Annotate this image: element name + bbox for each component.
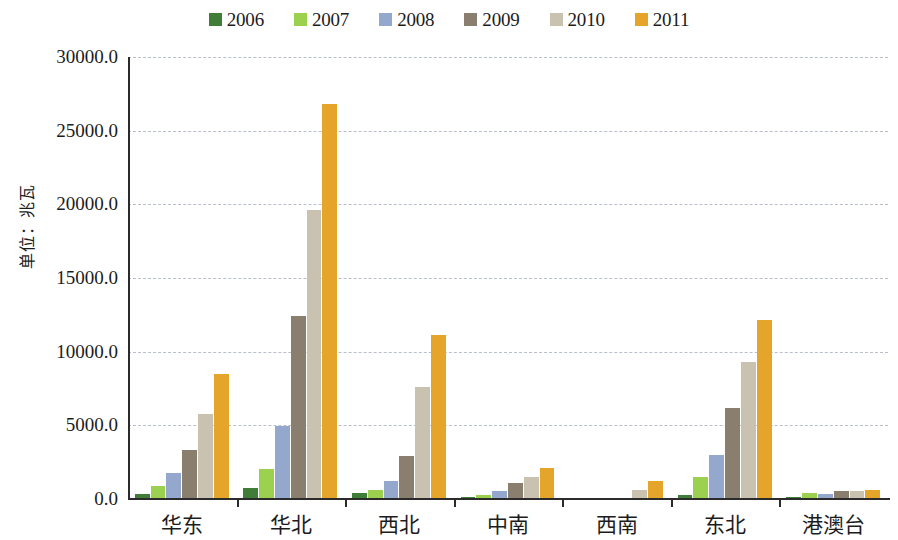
plot-area [128, 57, 888, 499]
bar-group-华北 [243, 57, 338, 499]
bar-西北-2008[interactable] [384, 481, 399, 499]
x-axis-category-label-华东: 华东 [161, 508, 203, 538]
bar-中南-2009[interactable] [508, 483, 523, 499]
bar-group-西北 [352, 57, 447, 499]
plot-wrapper [0, 0, 898, 540]
bar-中南-2010[interactable] [524, 477, 539, 499]
bar-东北-2008[interactable] [709, 455, 724, 499]
bar-华东-2010[interactable] [198, 414, 213, 499]
bar-group-中南 [461, 57, 556, 499]
x-axis-category-label-西北: 西北 [378, 508, 420, 538]
x-axis-category-label-中南: 中南 [487, 508, 529, 538]
bar-东北-2007[interactable] [693, 477, 708, 499]
x-axis-tick [671, 499, 673, 507]
bar-group-华东 [135, 57, 230, 499]
x-axis-tick [345, 499, 347, 507]
x-axis-category-label-港澳台: 港澳台 [802, 508, 865, 538]
bar-group-东北 [678, 57, 773, 499]
bar-group-西南 [569, 57, 664, 499]
x-axis-category-label-西南: 西南 [596, 508, 638, 538]
bar-华东-2011[interactable] [214, 374, 229, 499]
bar-东北-2011[interactable] [757, 320, 772, 499]
x-axis-tick [454, 499, 456, 507]
x-axis-category-label-华北: 华北 [270, 508, 312, 538]
bar-华北-2007[interactable] [259, 469, 274, 499]
bar-西北-2009[interactable] [399, 456, 414, 499]
bar-华北-2008[interactable] [275, 426, 290, 499]
bar-中南-2011[interactable] [540, 468, 555, 499]
x-axis-category-labels: 华东华北西北中南西南东北港澳台 [128, 508, 888, 540]
bar-group-港澳台 [786, 57, 881, 499]
y-axis-line [128, 57, 130, 500]
bar-西南-2011[interactable] [648, 481, 663, 499]
bar-华北-2009[interactable] [291, 316, 306, 499]
bar-chart: 200620072008200920102011 单位：兆瓦 30000.025… [0, 0, 898, 540]
x-axis-tick [779, 499, 781, 507]
bar-东北-2009[interactable] [725, 408, 740, 499]
bar-华东-2008[interactable] [166, 473, 181, 499]
bar-西北-2010[interactable] [415, 387, 430, 499]
bar-东北-2010[interactable] [741, 362, 756, 499]
x-axis-line [128, 498, 890, 500]
bar-华北-2011[interactable] [322, 104, 337, 499]
bar-西北-2011[interactable] [431, 335, 446, 499]
x-axis-tick [237, 499, 239, 507]
bar-华东-2009[interactable] [182, 450, 197, 499]
bar-华北-2010[interactable] [307, 210, 322, 500]
x-axis-category-label-东北: 东北 [704, 508, 746, 538]
x-axis-tick [562, 499, 564, 507]
